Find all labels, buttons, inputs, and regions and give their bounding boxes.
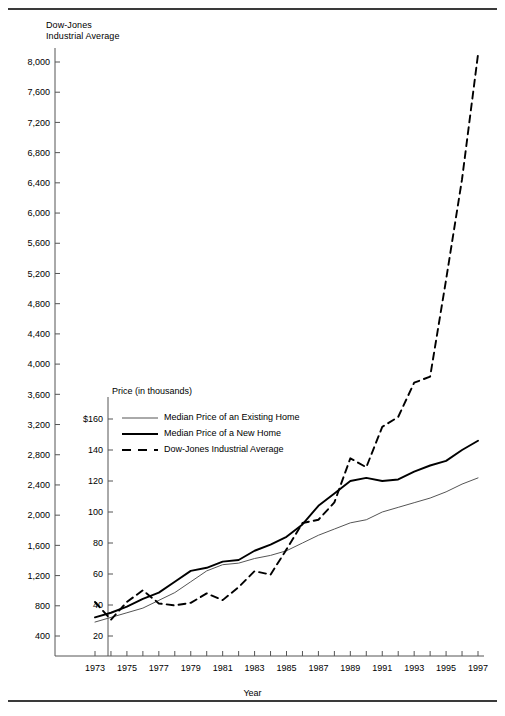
legend-sample-lines (122, 418, 158, 450)
legend-item-dow-jones: Dow-Jones Industrial Average (164, 444, 283, 454)
svg-text:1983: 1983 (245, 663, 265, 673)
svg-text:1989: 1989 (340, 663, 360, 673)
svg-text:60: 60 (93, 569, 103, 579)
legend-item-new-home: Median Price of a New Home (164, 428, 281, 438)
figure: Dow-Jones Industrial Average Price (in t… (0, 0, 505, 716)
svg-text:7,200: 7,200 (27, 118, 50, 128)
svg-text:4,000: 4,000 (27, 359, 50, 369)
series-line (95, 54, 478, 619)
svg-text:1985: 1985 (276, 663, 296, 673)
svg-text:1987: 1987 (308, 663, 328, 673)
svg-text:3,200: 3,200 (27, 420, 50, 430)
svg-text:1991: 1991 (372, 663, 392, 673)
svg-text:1997: 1997 (468, 663, 488, 673)
svg-text:20: 20 (93, 631, 103, 641)
svg-text:1995: 1995 (436, 663, 456, 673)
svg-text:400: 400 (35, 631, 50, 641)
svg-text:6,800: 6,800 (27, 148, 50, 158)
svg-text:100: 100 (88, 507, 103, 517)
svg-text:2,000: 2,000 (27, 510, 50, 520)
svg-text:1,200: 1,200 (27, 571, 50, 581)
series-line (95, 441, 478, 618)
svg-text:1975: 1975 (117, 663, 137, 673)
svg-text:140: 140 (88, 445, 103, 455)
svg-text:120: 120 (88, 476, 103, 486)
svg-text:5,600: 5,600 (27, 238, 50, 248)
x-axis: 1973197519771979198119831985198719891991… (55, 651, 488, 673)
svg-text:2,800: 2,800 (27, 450, 50, 460)
svg-text:80: 80 (93, 538, 103, 548)
svg-text:1,600: 1,600 (27, 541, 50, 551)
svg-text:1977: 1977 (149, 663, 169, 673)
svg-text:3,600: 3,600 (27, 390, 50, 400)
svg-text:1979: 1979 (181, 663, 201, 673)
svg-text:6,400: 6,400 (27, 178, 50, 188)
dow-axis: 4008001,2001,6002,0002,4002,8003,2003,60… (27, 48, 60, 656)
svg-text:1993: 1993 (404, 663, 424, 673)
svg-text:2,400: 2,400 (27, 480, 50, 490)
svg-text:1973: 1973 (85, 663, 105, 673)
svg-text:6,000: 6,000 (27, 208, 50, 218)
chart-plot-area: 4008001,2001,6002,0002,4002,8003,2003,60… (0, 0, 505, 716)
svg-text:800: 800 (35, 601, 50, 611)
svg-text:1981: 1981 (213, 663, 233, 673)
svg-text:7,600: 7,600 (27, 87, 50, 97)
data-series (95, 54, 478, 622)
svg-text:4,800: 4,800 (27, 299, 50, 309)
svg-text:$160: $160 (83, 414, 103, 424)
legend-item-existing-home: Median Price of an Existing Home (164, 412, 300, 422)
svg-text:4,400: 4,400 (27, 329, 50, 339)
svg-text:5,200: 5,200 (27, 269, 50, 279)
svg-text:8,000: 8,000 (27, 57, 50, 67)
